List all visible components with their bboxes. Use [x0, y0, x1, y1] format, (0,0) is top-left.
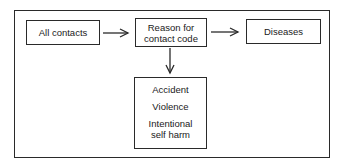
arrow-right-icon [211, 28, 238, 36]
arrow-down-icon [166, 48, 174, 73]
connector-arrows [0, 0, 342, 168]
arrow-right-icon [103, 29, 128, 37]
